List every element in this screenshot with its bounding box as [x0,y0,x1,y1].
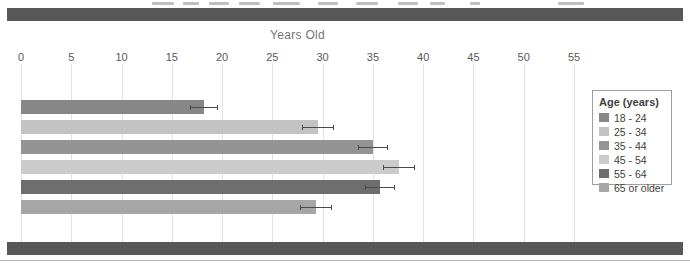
error-bar [302,123,334,132]
error-bar-cap [302,125,303,130]
error-bar-line [358,147,388,148]
bar [21,100,204,114]
axis-title: Years Old [21,28,574,42]
legend-items: 18 - 2425 - 3435 - 4445 - 5455 - 6465 or… [599,111,671,194]
axis-tick-label: 20 [216,51,228,63]
legend-item-label: 45 - 54 [614,154,647,166]
error-bar-cap [394,185,395,190]
bottom-rule [0,260,690,261]
axis-tick-label: 30 [317,51,329,63]
error-bar [365,183,395,192]
error-bar-line [383,167,415,168]
error-bar-cap [333,125,334,130]
error-bar-cap [387,145,388,150]
error-bar-cap [358,145,359,150]
legend-item: 65 or older [599,181,671,194]
axis-tick-label: 35 [367,51,379,63]
gridline [524,64,525,242]
legend-item: 45 - 54 [599,153,671,166]
cropped-glyph [470,2,480,5]
bar [21,160,399,174]
bar [21,200,316,214]
bar [21,120,318,134]
legend-swatch [599,169,609,178]
error-bar-line [302,127,334,128]
bottom-band [7,242,683,255]
gridline [373,64,374,242]
axis-tick-label: 45 [467,51,479,63]
axis-tick-label: 0 [18,51,24,63]
error-bar [358,143,388,152]
axis-tick-label: 15 [166,51,178,63]
cropped-glyph [318,2,338,5]
legend-item-label: 18 - 24 [614,112,647,124]
axis-tick-label: 5 [68,51,74,63]
bar [21,180,380,194]
axis-tick-label: 55 [568,51,580,63]
legend-item: 25 - 34 [599,125,671,138]
legend-swatch [599,141,609,150]
error-bar-cap [383,165,384,170]
legend-swatch [599,127,609,136]
error-bar-cap [300,205,301,210]
legend-swatch [599,113,609,122]
axis-tick-label: 50 [518,51,530,63]
legend-item-label: 55 - 64 [614,168,647,180]
legend: Age (years) 18 - 2425 - 3435 - 4445 - 54… [592,90,672,185]
cropped-glyph [558,2,584,5]
cropped-glyph [239,2,260,5]
axis-tick-label: 40 [417,51,429,63]
error-bar-line [365,187,395,188]
error-bar-cap [190,105,191,110]
error-bar-line [190,107,218,108]
bar [21,140,373,154]
error-bar-cap [331,205,332,210]
error-bar-cap [365,185,366,190]
axis-tick-label: 10 [115,51,127,63]
error-bar [190,103,218,112]
gridline [574,64,575,242]
axis-tick-label: 25 [266,51,278,63]
cropped-glyph [273,2,300,5]
gridline [423,64,424,242]
top-band [7,8,683,21]
legend-item: 18 - 24 [599,111,671,124]
cropped-glyph [430,2,445,5]
cropped-glyph [209,2,229,5]
cropped-glyph [356,2,378,5]
error-bar-line [300,207,332,208]
error-bar-cap [414,165,415,170]
cropped-text-remnant [0,0,690,5]
legend-item-label: 35 - 44 [614,140,647,152]
legend-item: 35 - 44 [599,139,671,152]
legend-item-label: 65 or older [614,182,664,194]
legend-item-label: 25 - 34 [614,126,647,138]
chart-canvas: Years Old 0510152025303540455055 Age (ye… [0,0,690,264]
gridline [473,64,474,242]
cropped-glyph [398,2,418,5]
legend-swatch [599,183,609,192]
cropped-glyph [152,2,174,5]
error-bar-cap [217,105,218,110]
legend-swatch [599,155,609,164]
legend-title: Age (years) [599,96,671,108]
legend-item: 55 - 64 [599,167,671,180]
cropped-glyph [183,2,199,5]
error-bar [300,203,332,212]
error-bar [383,163,415,172]
